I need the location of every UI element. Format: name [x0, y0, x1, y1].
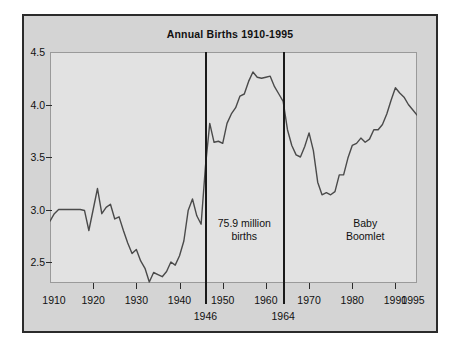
y-axis-tick [46, 105, 52, 106]
x-axis-tick [93, 283, 94, 289]
vertical-marker-line [283, 52, 285, 304]
chart-canvas [50, 52, 417, 283]
x-axis-tick [180, 283, 181, 289]
y-axis-tick [46, 210, 52, 211]
x-axis-tick [352, 283, 353, 289]
x-axis-tick [136, 283, 137, 289]
chart-title: Annual Births 1910-1995 [24, 28, 436, 40]
x-axis-tick [266, 283, 267, 289]
x-axis-label: 1910 [42, 294, 65, 306]
y-axis-label: 4.5 [30, 46, 45, 58]
y-axis-tick [46, 262, 52, 263]
x-axis-label: 1980 [341, 294, 364, 306]
x-axis-label: 1950 [211, 294, 234, 306]
x-axis-label: 1970 [297, 294, 320, 306]
y-axis-label: 4.0 [30, 99, 45, 111]
plot-area-wrapper: 4.54.03.53.02.5 191019201930194019501960… [50, 52, 417, 283]
y-axis-label: 3.5 [30, 151, 45, 163]
vertical-marker-label: 1946 [194, 310, 217, 322]
chart-figure: Annual Births 1910-1995 4.54.03.53.02.5 … [22, 14, 438, 333]
x-axis-label: 1930 [125, 294, 148, 306]
y-axis-label: 3.0 [30, 204, 45, 216]
vertical-marker-label: 1964 [271, 310, 294, 322]
y-axis-label: 2.5 [30, 256, 45, 268]
x-axis-label: 1995 [401, 294, 424, 306]
x-axis-tick [395, 283, 396, 289]
chart-annotation: 75.9 million births [218, 217, 271, 243]
vertical-marker-line [205, 52, 207, 304]
x-axis-tick [223, 283, 224, 289]
births-line [50, 72, 417, 282]
x-axis-tick [309, 283, 310, 289]
y-axis-tick [46, 157, 52, 158]
chart-annotation: Baby Boomlet [346, 217, 385, 243]
x-axis-label: 1920 [81, 294, 104, 306]
x-axis-label: 1960 [254, 294, 277, 306]
x-axis-label: 1940 [168, 294, 191, 306]
